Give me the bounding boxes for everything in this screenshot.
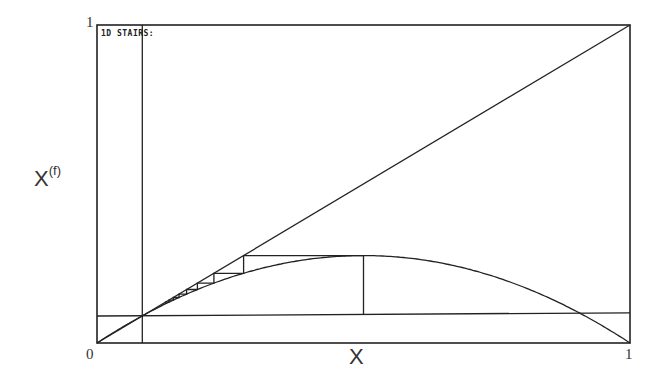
y-axis-label-sup: (f) (49, 163, 61, 178)
x-tick-0: 0 (86, 346, 94, 363)
x-tick-1: 1 (625, 346, 633, 363)
y-axis-label-base: X (34, 166, 49, 191)
chart-canvas (0, 0, 669, 383)
y-tick-1: 1 (86, 14, 94, 31)
x-axis-label: X (349, 344, 364, 370)
y-axis-label: X(f) (34, 166, 61, 192)
chart-title: 1D STAIRS: (101, 29, 154, 38)
